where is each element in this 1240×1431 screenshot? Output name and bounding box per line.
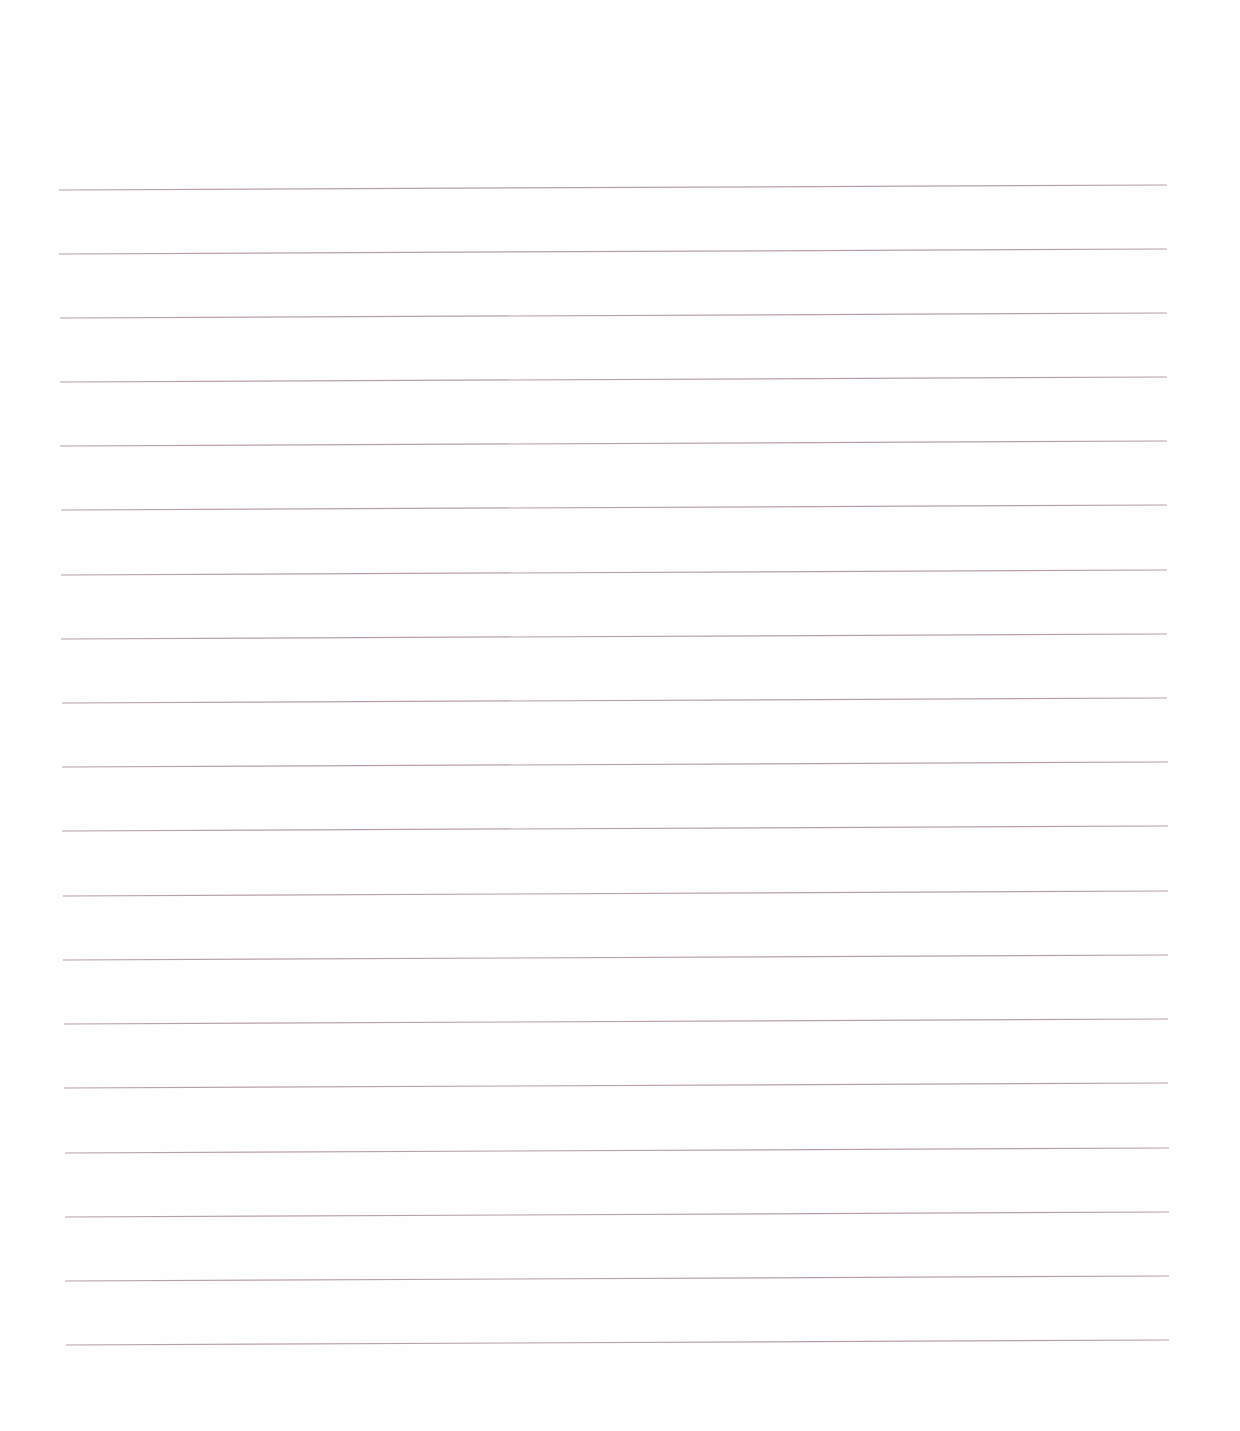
ruled-line-3	[60, 313, 1167, 318]
ruled-line-17	[65, 1212, 1169, 1217]
ruled-line-6	[61, 505, 1167, 510]
ruled-line-18	[65, 1276, 1169, 1281]
ruled-line-2	[59, 249, 1167, 254]
ruled-line-10	[62, 762, 1168, 767]
ruled-line-11	[62, 826, 1168, 831]
ruled-line-15	[64, 1083, 1168, 1088]
ruled-line-1	[59, 185, 1167, 190]
ruled-line-12	[63, 891, 1168, 896]
ruled-line-5	[60, 441, 1167, 446]
ruled-line-8	[61, 634, 1167, 639]
ruled-line-4	[60, 377, 1167, 382]
ruled-line-13	[63, 955, 1168, 960]
ruled-line-9	[62, 698, 1167, 703]
ruled-line-14	[64, 1019, 1168, 1024]
lined-paper-page	[0, 0, 1240, 1431]
ruled-lines	[0, 0, 1240, 1431]
ruled-line-19	[66, 1340, 1169, 1345]
ruled-line-16	[65, 1148, 1169, 1153]
ruled-line-7	[61, 570, 1167, 575]
